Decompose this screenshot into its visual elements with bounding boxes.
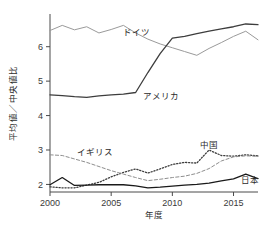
series-line-0 bbox=[50, 25, 258, 55]
series-line-1 bbox=[50, 24, 258, 97]
axis-lines bbox=[50, 14, 258, 192]
y-axis-title: 平均値／中央値比 bbox=[8, 65, 18, 141]
series-label-3: イギリス bbox=[77, 147, 113, 157]
y-tick-label: 4 bbox=[38, 111, 43, 121]
series-label-0: ドイツ bbox=[123, 27, 150, 37]
x-tick-label: 2015 bbox=[224, 198, 244, 208]
series-label-4: 日本 bbox=[241, 175, 259, 185]
series-line-3 bbox=[50, 155, 258, 181]
y-tick-label: 6 bbox=[38, 42, 43, 52]
series-line-4 bbox=[50, 174, 258, 188]
series-label-2: 中国 bbox=[200, 140, 218, 150]
x-tick-label: 2005 bbox=[101, 198, 121, 208]
y-tick-label: 2 bbox=[38, 180, 43, 190]
x-tick-label: 2000 bbox=[40, 198, 60, 208]
chart-container: 234562000200520102015年度平均値／中央値比ドイツアメリカ中国… bbox=[0, 0, 266, 233]
y-tick-label: 3 bbox=[38, 145, 43, 155]
y-tick-label: 5 bbox=[38, 76, 43, 86]
x-axis-title: 年度 bbox=[145, 210, 163, 220]
series-label-1: アメリカ bbox=[143, 91, 179, 101]
line-chart-plot: 234562000200520102015年度平均値／中央値比ドイツアメリカ中国… bbox=[0, 0, 266, 233]
x-tick-label: 2010 bbox=[162, 198, 182, 208]
